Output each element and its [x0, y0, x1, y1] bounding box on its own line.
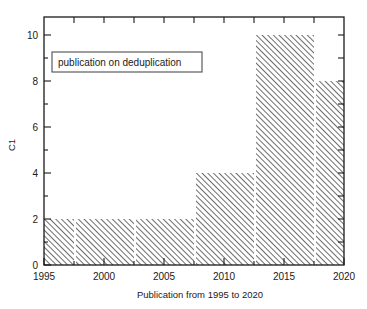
bar-1997.5-2002.5 — [76, 219, 134, 265]
x-tick-label-1995: 1995 — [33, 271, 56, 282]
bar-2007.5-2012.5 — [196, 173, 254, 265]
x-tick-label-2015: 2015 — [273, 271, 296, 282]
y-tick-label-10: 10 — [27, 30, 39, 41]
y-tick-label-2: 2 — [32, 214, 38, 225]
y-tick-label-6: 6 — [32, 122, 38, 133]
x-tick-label-2005: 2005 — [153, 271, 176, 282]
y-tick-label-4: 4 — [32, 168, 38, 179]
legend-label: publication on deduplication — [58, 57, 181, 68]
bar-2012.5-2017.5 — [256, 35, 314, 265]
x-tick-label-2010: 2010 — [213, 271, 236, 282]
x-tick-label-2020: 2020 — [333, 271, 356, 282]
bar-2002.5-2007.5 — [136, 219, 194, 265]
y-tick-label-0: 0 — [32, 260, 38, 271]
y-axis-title: C1 — [6, 139, 17, 151]
legend-box: publication on deduplication — [52, 52, 202, 72]
x-axis-title: Publication from 1995 to 2020 — [137, 289, 263, 300]
chart-figure: 0 2 4 6 8 10 1995 2000 2005 2010 2015 20… — [0, 0, 367, 309]
bar-1995-1997.5 — [44, 219, 74, 265]
y-tick-label-8: 8 — [32, 76, 38, 87]
x-tick-label-2000: 2000 — [93, 271, 116, 282]
histogram-chart: 0 2 4 6 8 10 1995 2000 2005 2010 2015 20… — [0, 0, 367, 309]
